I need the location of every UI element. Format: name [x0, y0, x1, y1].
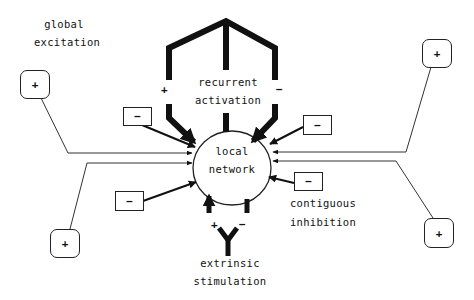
global-label-line2: excitation: [34, 36, 94, 49]
recurrent-activation-label: recurrent activation: [188, 76, 268, 107]
contiguous-inhibition-label: contiguous inhibition: [278, 197, 368, 229]
local-network-label: local network: [198, 145, 266, 176]
contiguous-label-line2: inhibition: [278, 216, 368, 229]
contiguous-label-line1: contiguous: [278, 197, 368, 210]
minus-box-upper-left: −: [123, 107, 152, 126]
minus-box-upper-right: −: [303, 115, 332, 135]
minus-box-lower-left: −: [115, 191, 144, 211]
recurrent-plus-sign: +: [161, 84, 168, 95]
recurrent-label-line1: recurrent: [188, 76, 268, 89]
plus-box-bottom-left: +: [50, 229, 80, 258]
extrinsic-minus-sign: −: [239, 219, 246, 230]
local-label-line2: network: [198, 163, 266, 176]
local-label-line1: local: [198, 145, 266, 158]
global-excitation-label: global excitation: [34, 18, 94, 49]
recurrent-label-line2: activation: [188, 94, 268, 107]
global-label-line1: global: [34, 18, 94, 31]
plus-box-top-left: +: [20, 70, 50, 99]
plus-box-top-right: +: [422, 39, 452, 68]
extrinsic-stimulation-label: extrinsic stimulation: [192, 257, 268, 288]
plus-box-bottom-right: +: [424, 218, 454, 248]
recurrent-minus-sign: −: [276, 84, 283, 95]
extrinsic-label-line1: extrinsic: [192, 257, 268, 270]
extrinsic-plus-sign: +: [211, 219, 218, 230]
extrinsic-label-line2: stimulation: [192, 275, 268, 288]
minus-box-lower-right: −: [294, 172, 323, 191]
